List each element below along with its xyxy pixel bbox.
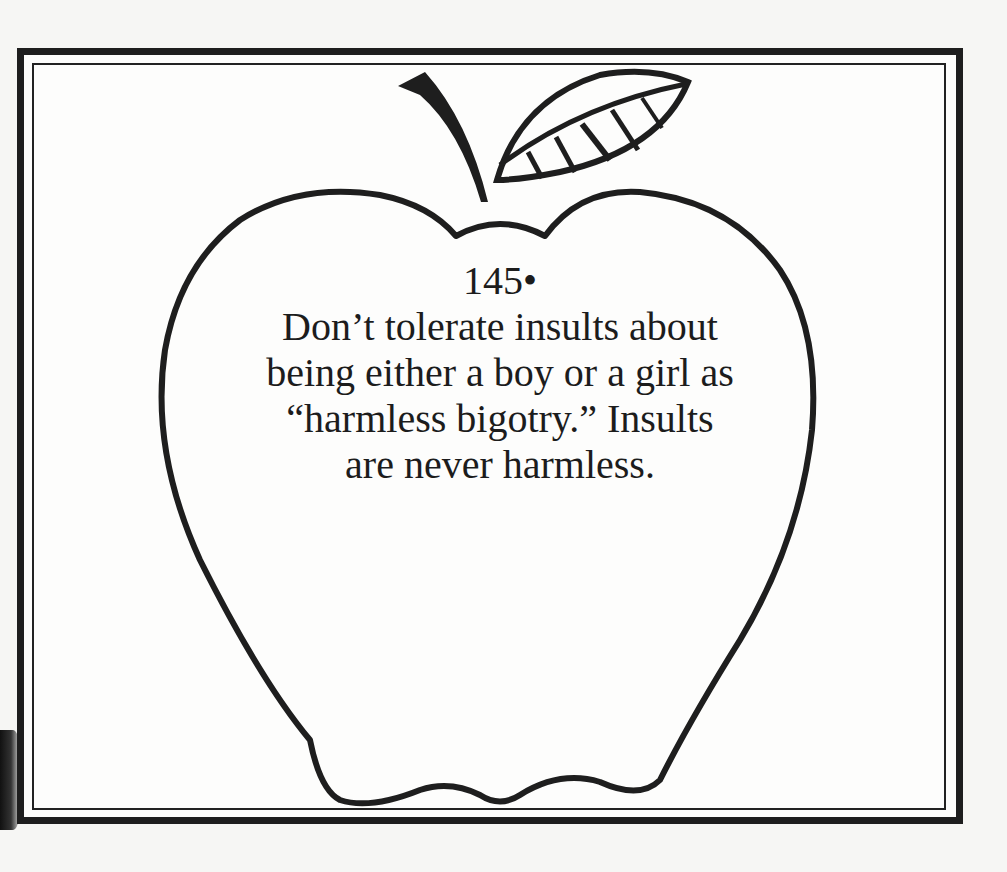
quote-line: being either a boy or a girl as bbox=[180, 350, 820, 396]
bullet-icon: • bbox=[523, 258, 537, 303]
quote-line: Don’t tolerate insults about bbox=[180, 304, 820, 350]
stem-icon bbox=[398, 72, 488, 202]
tip-number-value: 145 bbox=[463, 258, 523, 303]
leaf-icon bbox=[497, 72, 688, 180]
quote-line: are never harmless. bbox=[180, 442, 820, 488]
quote-block: 145• Don’t tolerate insults about being … bbox=[180, 258, 820, 488]
tip-number: 145• bbox=[180, 258, 820, 304]
page: 145• Don’t tolerate insults about being … bbox=[0, 0, 1007, 872]
quote-line: “harmless bigotry.” Insults bbox=[180, 396, 820, 442]
